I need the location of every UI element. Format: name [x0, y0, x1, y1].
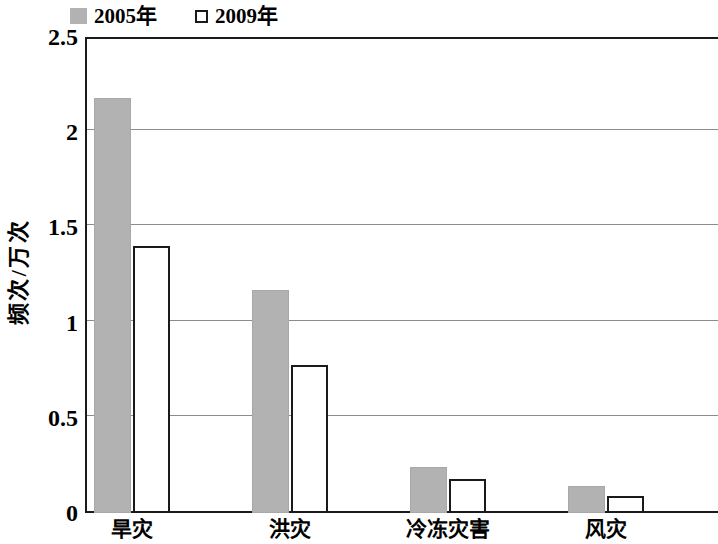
y-tick-label: 1 [6, 311, 78, 335]
bar-chart: 2005年 2009年 频次/万次 00.511.522.5 旱灾洪灾冷冻灾害风… [0, 0, 718, 544]
bar-2005-3 [568, 486, 605, 513]
legend-swatch-2005-icon [70, 8, 87, 24]
bars-layer [85, 37, 718, 513]
bar-2005-1 [252, 290, 289, 513]
legend-label-2009: 2009年 [215, 6, 278, 27]
legend-label-2005: 2005年 [94, 6, 157, 27]
y-tick-label: 2 [6, 120, 78, 144]
bar-2009-3 [607, 496, 644, 513]
bar-2005-2 [410, 467, 447, 513]
legend-item-2009: 2009年 [195, 6, 278, 27]
x-tick-label: 洪灾 [269, 516, 311, 542]
bar-2009-0 [133, 246, 170, 513]
legend-swatch-2009-icon [195, 10, 208, 23]
legend-item-2005: 2005年 [70, 6, 157, 27]
y-tick-label: 2.5 [6, 25, 78, 49]
x-tick-label: 风灾 [585, 516, 627, 542]
y-tick-label: 0.5 [6, 406, 78, 430]
bar-2009-2 [449, 479, 486, 513]
y-tick-label: 1.5 [6, 215, 78, 239]
y-tick-label: 0 [6, 501, 78, 525]
x-axis-ticks: 旱灾洪灾冷冻灾害风灾 [85, 516, 718, 544]
y-axis-ticks: 00.511.522.5 [0, 37, 78, 513]
x-tick-label: 旱灾 [111, 516, 153, 542]
bar-2005-0 [94, 98, 131, 513]
chart-legend: 2005年 2009年 [70, 2, 278, 30]
bar-2009-1 [291, 365, 328, 514]
x-tick-label: 冷冻灾害 [406, 516, 490, 542]
